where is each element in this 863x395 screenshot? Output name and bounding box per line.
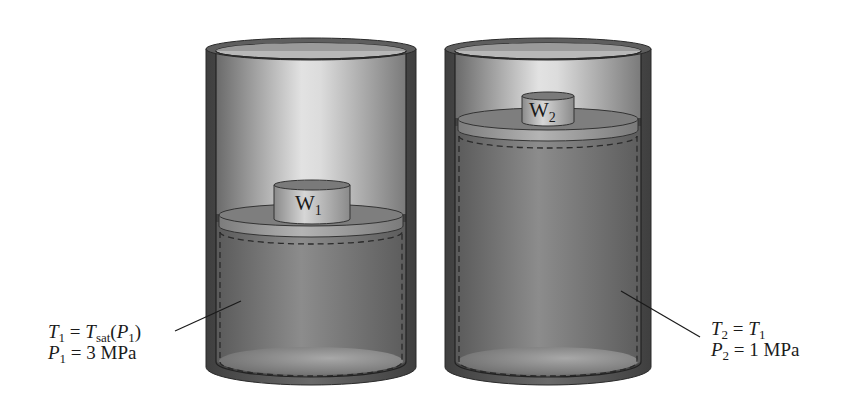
state-2-temperature: T2 = T1 xyxy=(711,318,799,339)
symbol: P xyxy=(48,342,60,363)
value: = 3 MPa xyxy=(66,342,136,363)
weight-1-subscript: 1 xyxy=(315,203,322,218)
symbol: T xyxy=(48,321,59,342)
paren: ) xyxy=(135,321,141,342)
symbol: T xyxy=(748,318,759,339)
weight-2-subscript: 2 xyxy=(549,110,556,125)
equals: = xyxy=(65,321,85,342)
cylinder-2 xyxy=(445,38,651,385)
symbol: T xyxy=(711,318,722,339)
equals: = xyxy=(728,318,748,339)
weight-1-letter: W xyxy=(295,191,315,215)
state-1-temperature: T1 = Tsat(P1) xyxy=(48,321,141,342)
weight-2-label: W2 xyxy=(529,98,556,123)
symbol: T xyxy=(85,321,96,342)
state-2-pressure: P2 = 1 MPa xyxy=(711,339,799,360)
symbol: P xyxy=(117,321,129,342)
weight-1-label: W1 xyxy=(295,191,322,216)
value: = 1 MPa xyxy=(729,339,799,360)
symbol: P xyxy=(711,339,723,360)
state-2-annotation: T2 = T1 P2 = 1 MPa xyxy=(711,318,799,360)
state-1-pressure: P1 = 3 MPa xyxy=(48,342,141,363)
weight-2-letter: W xyxy=(529,98,549,122)
state-1-annotation: T1 = Tsat(P1) P1 = 3 MPa xyxy=(48,321,141,363)
